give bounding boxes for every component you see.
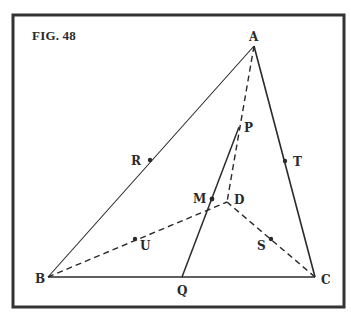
label-m: M [193, 192, 206, 206]
segment-bd-dashed [48, 202, 227, 277]
label-q: Q [177, 284, 187, 298]
label-d: D [234, 193, 244, 207]
diagram-canvas: A B C D P M Q R T U S [0, 0, 351, 318]
point-r-dot [148, 158, 152, 162]
point-s-dot [269, 237, 273, 241]
label-b: B [35, 272, 45, 286]
point-u-dot [133, 237, 137, 241]
figure-title: FIG. 48 [32, 28, 76, 44]
geometry-figure: FIG. 48 A B C D P M Q R T U S [0, 0, 351, 318]
label-t: T [293, 155, 302, 169]
label-s: S [257, 239, 266, 253]
label-u: U [140, 239, 151, 253]
label-p: P [244, 121, 253, 135]
label-c: C [321, 273, 331, 287]
point-t-dot [283, 159, 287, 163]
segment-qp [182, 127, 239, 277]
point-m-dot [210, 197, 215, 202]
label-a: A [248, 30, 259, 44]
label-r: R [131, 154, 142, 168]
